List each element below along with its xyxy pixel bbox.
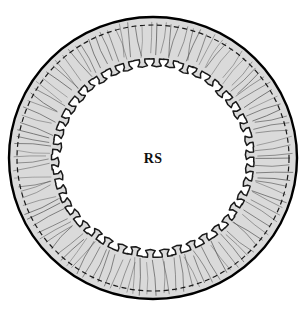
ring-cross-section-diagram: RS [0, 0, 307, 315]
center-label-rs: RS [144, 151, 163, 166]
figure-root: RS [0, 0, 307, 315]
